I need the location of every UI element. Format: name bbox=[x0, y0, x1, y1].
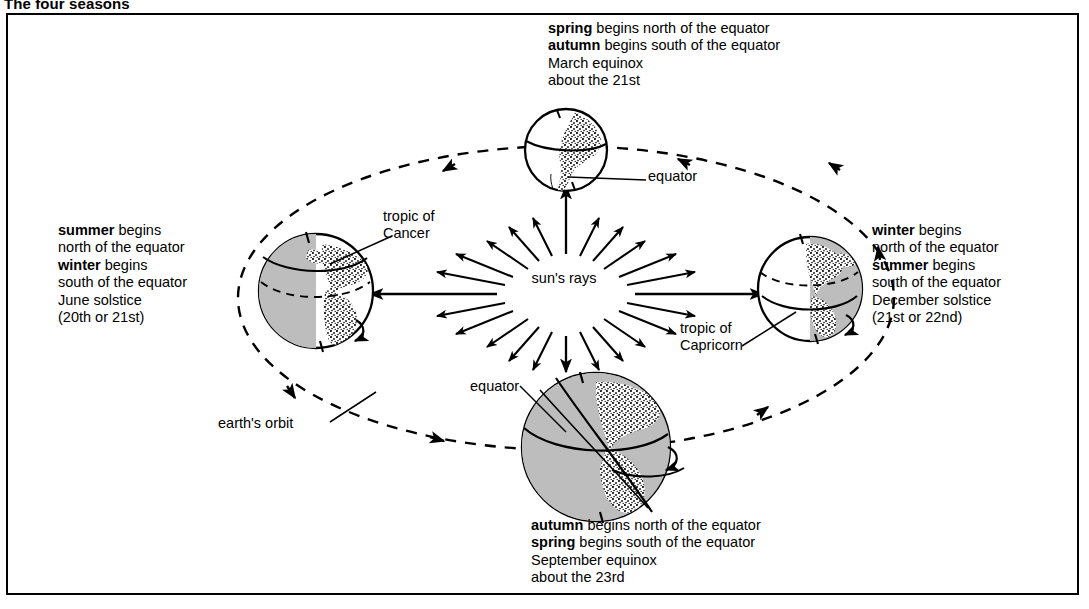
december-solstice-season-1: winter bbox=[872, 222, 915, 238]
march-equinox-text-2: begins south of the equator bbox=[600, 37, 780, 53]
earth-top bbox=[525, 109, 646, 196]
label-december-solstice: winter begins north of the equator summe… bbox=[872, 222, 1001, 326]
december-solstice-season-2: summer bbox=[872, 257, 928, 273]
earth-right bbox=[742, 234, 868, 346]
march-equinox-season-2: autumn bbox=[548, 37, 600, 53]
september-equinox-season-1: autumn bbox=[531, 517, 583, 533]
june-solstice-text-3: begins bbox=[101, 257, 148, 273]
label-earths-orbit: earth's orbit bbox=[218, 415, 293, 432]
june-solstice-event: June solstice bbox=[58, 292, 187, 309]
march-equinox-season-1: spring bbox=[548, 20, 592, 36]
label-tropic-of-capricorn: tropic of Capricorn bbox=[680, 320, 743, 354]
june-solstice-season-1: summer bbox=[58, 222, 114, 238]
december-solstice-text-4: south of the equator bbox=[872, 274, 1001, 291]
september-equinox-date: about the 23rd bbox=[531, 569, 761, 586]
tropic-of-cancer-line-2: Cancer bbox=[383, 225, 435, 242]
tropic-of-cancer-line-1: tropic of bbox=[383, 208, 435, 225]
tropic-of-capricorn-line-2: Capricorn bbox=[680, 337, 743, 354]
december-solstice-text-1: begins bbox=[915, 222, 962, 238]
june-solstice-text-1: begins bbox=[114, 222, 161, 238]
march-equinox-date: about the 21st bbox=[548, 72, 780, 89]
december-solstice-date: (21st or 22nd) bbox=[872, 309, 1001, 326]
label-equator-bottom: equator bbox=[470, 378, 519, 395]
earth-left bbox=[255, 230, 392, 354]
tropic-of-capricorn-line-1: tropic of bbox=[680, 320, 743, 337]
june-solstice-season-2: winter bbox=[58, 257, 101, 273]
september-equinox-text-1: begins north of the equator bbox=[583, 517, 760, 533]
september-equinox-season-2: spring bbox=[531, 534, 575, 550]
label-tropic-of-cancer: tropic of Cancer bbox=[383, 208, 435, 242]
label-september-equinox: autumn begins north of the equator sprin… bbox=[531, 517, 761, 587]
december-solstice-event: December solstice bbox=[872, 292, 1001, 309]
december-solstice-text-3: begins bbox=[928, 257, 975, 273]
september-equinox-event: September equinox bbox=[531, 552, 761, 569]
march-equinox-event: March equinox bbox=[548, 55, 780, 72]
label-march-equinox: spring begins north of the equator autum… bbox=[548, 20, 780, 90]
label-suns-rays: sun's rays bbox=[521, 268, 607, 288]
label-june-solstice: summer begins north of the equator winte… bbox=[58, 222, 187, 326]
june-solstice-text-4: south of the equator bbox=[58, 274, 187, 291]
june-solstice-date: (20th or 21st) bbox=[58, 309, 187, 326]
june-solstice-text-2: north of the equator bbox=[58, 239, 187, 256]
march-equinox-text-1: begins north of the equator bbox=[592, 20, 769, 36]
december-solstice-text-2: north of the equator bbox=[872, 239, 1001, 256]
earth-bottom bbox=[518, 370, 684, 526]
september-equinox-text-2: begins south of the equator bbox=[575, 534, 755, 550]
label-equator-top: equator bbox=[648, 168, 697, 185]
